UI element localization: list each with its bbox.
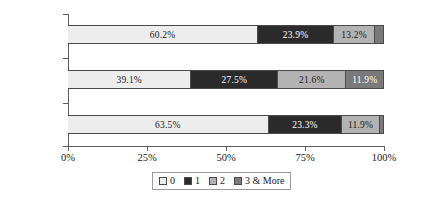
bar-segment: 60.2% [68,25,258,44]
x-tick-label: 100% [354,152,414,163]
legend-label: 0 [170,175,175,187]
legend-label: 1 [195,175,200,187]
bar-segment [380,115,384,134]
x-tick [384,146,385,151]
legend-label: 2 [220,175,225,187]
bar-segment: 27.5% [191,70,278,89]
legend-swatch-icon [184,177,192,185]
legend-swatch-icon [234,177,242,185]
x-tick [226,146,227,151]
legend-item: 1 [184,175,200,187]
bar-segment [375,25,384,44]
x-tick-label: 75% [275,152,335,163]
legend-item: 3 & More [234,175,284,187]
bar-segment: 21.6% [278,70,346,89]
bar-row: Total60.2%23.9%13.2% [68,25,384,44]
legend-swatch-icon [159,177,167,185]
legend-item: 0 [159,175,175,187]
bar-segment: 11.9% [346,70,384,89]
x-tick-label: 0% [38,152,98,163]
x-tick [147,146,148,151]
legend-item: 2 [209,175,225,187]
bar-segment: 13.2% [334,25,376,44]
bar-row: Ineligible39.1%27.5%21.6%11.9% [68,70,384,89]
bar-segment: 23.9% [258,25,334,44]
bar-segment: 11.9% [342,115,380,134]
chart-legend: 0123 & More [152,172,291,190]
bar-row: Eligible63.5%23.3%11.9% [68,115,384,134]
bar-segment: 23.3% [269,115,343,134]
legend-label: 3 & More [245,175,284,187]
x-tick-label: 25% [117,152,177,163]
legend-swatch-icon [209,177,217,185]
x-tick-label: 50% [196,152,256,163]
plot-area: Total60.2%23.9%13.2%Ineligible39.1%27.5%… [68,14,384,142]
x-tick [68,146,69,151]
x-tick [305,146,306,151]
stacked-bar-chart: Total60.2%23.9%13.2%Ineligible39.1%27.5%… [0,0,422,198]
bar-segment: 63.5% [68,115,269,134]
bar-segment: 39.1% [68,70,191,89]
